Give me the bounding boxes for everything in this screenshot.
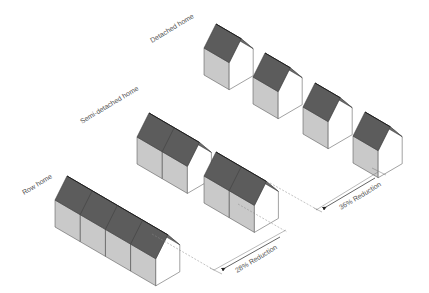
label-detached-home: Detached home — [149, 12, 195, 44]
diagram-canvas: 36% Reduction 28% Reduction Detached hom… — [0, 0, 429, 293]
reduction-label-semi: 36% Reduction — [338, 180, 382, 211]
houses-group — [55, 24, 402, 286]
label-semi-detached-home: Semi-detached home — [79, 85, 140, 125]
isometric-housing-diagram: 36% Reduction 28% Reduction Detached hom… — [0, 0, 429, 293]
reduction-label-row: 28% Reduction — [234, 243, 278, 274]
reduction-indicator-semi: 36% Reduction — [270, 168, 386, 212]
label-row-home: Row home — [21, 173, 53, 196]
